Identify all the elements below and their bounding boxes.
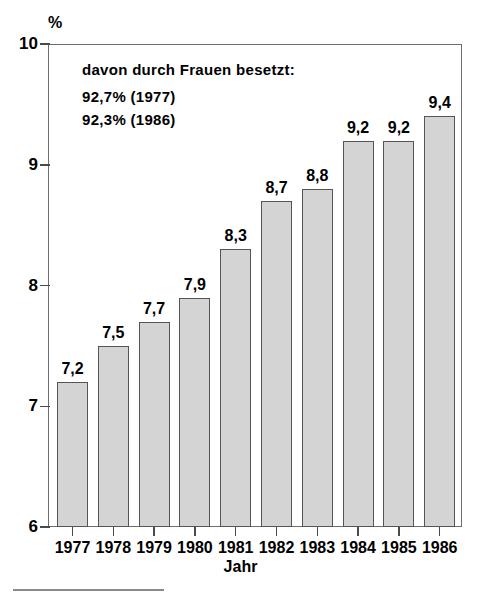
x-axis-tick-label: 1979 [136, 539, 172, 557]
x-axis-tick [439, 527, 441, 536]
annotation-share-1986: 92,3% (1986) [82, 108, 295, 131]
bar-value-label: 7,2 [61, 360, 83, 378]
bar-value-label: 9,2 [388, 119, 410, 137]
bar-chart: % 109876 7,219777,519787,719797,919808,3… [0, 0, 481, 602]
x-axis-tick-label: 1983 [300, 539, 336, 557]
x-axis-tick [317, 527, 319, 536]
bar-value-label: 7,9 [184, 276, 206, 294]
y-axis-tick [40, 164, 50, 166]
x-axis-tick-label: 1982 [259, 539, 295, 557]
bar-value-label: 7,7 [143, 300, 165, 318]
annotation-heading: davon durch Frauen besetzt: [82, 58, 295, 81]
bar [383, 141, 414, 527]
bar [57, 382, 88, 527]
x-axis-tick-label: 1980 [177, 539, 213, 557]
x-axis-tick [276, 527, 278, 536]
footer-rule [13, 589, 164, 591]
bar [220, 249, 251, 527]
y-axis-tick [40, 406, 50, 408]
bar-value-label: 8,8 [306, 167, 328, 185]
bar [139, 322, 170, 527]
x-axis-tick-label: 1981 [218, 539, 254, 557]
x-axis-tick-label: 1986 [422, 539, 458, 557]
x-axis-tick [153, 527, 155, 536]
annotation-block: davon durch Frauen besetzt: 92,7% (1977)… [82, 58, 295, 131]
bar [98, 346, 129, 527]
x-axis-tick [398, 527, 400, 536]
x-axis-tick-label: 1977 [55, 539, 91, 557]
y-axis-tick [40, 526, 50, 528]
bar [261, 201, 292, 527]
bar-value-label: 7,5 [102, 324, 124, 342]
x-axis-tick [72, 527, 74, 536]
bar-value-label: 8,7 [265, 179, 287, 197]
x-axis-title: Jahr [0, 558, 481, 576]
x-axis-tick [235, 527, 237, 536]
bar-value-label: 8,3 [225, 227, 247, 245]
x-axis-tick [357, 527, 359, 536]
bar [302, 189, 333, 527]
annotation-share-1977: 92,7% (1977) [82, 85, 295, 108]
x-axis-tick [113, 527, 115, 536]
bar [179, 298, 210, 527]
y-axis-tick [40, 285, 50, 287]
x-axis-tick-label: 1984 [340, 539, 376, 557]
x-axis-tick-label: 1978 [96, 539, 132, 557]
x-axis-tick [194, 527, 196, 536]
bar-value-label: 9,4 [429, 94, 451, 112]
y-axis-tick [40, 43, 50, 45]
bar-value-label: 9,2 [347, 119, 369, 137]
bar [343, 141, 374, 527]
bar [424, 116, 455, 527]
x-axis-tick-label: 1985 [381, 539, 417, 557]
